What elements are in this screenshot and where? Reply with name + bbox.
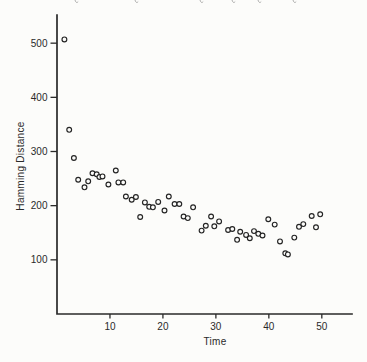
x-tick-label: 30 (210, 321, 222, 332)
data-point (191, 205, 196, 210)
cropped-text-fragment (200, 0, 203, 3)
data-point (286, 252, 291, 257)
data-point (185, 216, 190, 221)
data-point (247, 236, 252, 241)
x-tick-label: 50 (316, 321, 328, 332)
axis-lines (57, 15, 352, 314)
data-point (217, 219, 222, 224)
y-tick-label: 300 (31, 146, 48, 157)
data-point (113, 168, 118, 173)
data-point (292, 235, 297, 240)
data-point (76, 177, 81, 182)
scatter-plot: 1002003004005001020304050 (0, 0, 367, 362)
scanned-figure-page: 1002003004005001020304050 Hamming Distan… (0, 0, 367, 362)
data-point (177, 202, 182, 207)
data-point (238, 229, 243, 234)
data-point (134, 195, 139, 200)
data-point (162, 208, 167, 213)
data-point (166, 194, 171, 199)
data-point (72, 156, 77, 161)
y-tick-label: 100 (31, 254, 48, 265)
data-point (82, 185, 87, 190)
data-point (151, 205, 156, 210)
cropped-text-fragment (135, 0, 138, 3)
data-point (209, 214, 214, 219)
data-point (272, 222, 277, 227)
data-point (172, 202, 177, 207)
x-tick-label: 20 (157, 321, 169, 332)
data-point (266, 217, 271, 222)
y-tick-label: 500 (31, 38, 48, 49)
x-axis-title: Time (203, 336, 226, 347)
data-point (100, 174, 105, 179)
data-point (106, 182, 111, 187)
cropped-text-fragment (232, 0, 235, 3)
data-point (235, 237, 240, 242)
data-point (314, 225, 319, 230)
data-point (309, 214, 314, 219)
data-point (143, 200, 148, 205)
data-point (86, 179, 91, 184)
data-point (199, 228, 204, 233)
y-axis-title: Hamming Distance (15, 121, 26, 210)
data-point (121, 180, 126, 185)
y-tick-label: 400 (31, 92, 48, 103)
data-point (212, 224, 217, 229)
data-point (62, 37, 67, 42)
cropped-text-fragment (75, 0, 78, 3)
data-point (301, 222, 306, 227)
data-point (318, 212, 323, 217)
data-point (124, 194, 129, 199)
data-point (138, 215, 143, 220)
data-point (278, 239, 283, 244)
data-point (260, 233, 265, 238)
x-tick-label: 40 (263, 321, 275, 332)
y-tick-label: 200 (31, 200, 48, 211)
data-point (67, 127, 72, 132)
data-point (203, 223, 208, 228)
data-point (156, 200, 161, 205)
cropped-text-fragment (293, 0, 296, 3)
data-point (230, 227, 235, 232)
x-tick-label: 10 (104, 321, 116, 332)
cropped-text-fragment (258, 0, 261, 3)
data-point (116, 180, 121, 185)
